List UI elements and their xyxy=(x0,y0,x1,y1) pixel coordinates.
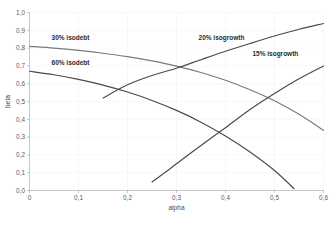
y-tick-label: 0,1 xyxy=(16,169,25,176)
series-label: 15% isogrowth xyxy=(252,50,298,58)
y-tick-label: 0,5 xyxy=(16,98,25,105)
y-tick-label: 0,0 xyxy=(16,187,25,194)
x-tick-label: 0,3 xyxy=(172,194,181,201)
line-chart: 0,00,10,20,30,40,50,60,70,80,91,000,10,2… xyxy=(0,0,330,227)
y-tick-label: 0,4 xyxy=(16,116,25,123)
x-tick-label: 0,2 xyxy=(123,194,132,201)
y-tick-label: 0,2 xyxy=(16,151,25,158)
x-tick-label: 0,5 xyxy=(270,194,279,201)
series-label: 60% isodebt xyxy=(52,59,91,66)
series-label: 30% isodebt xyxy=(52,34,91,41)
y-tick-label: 0,3 xyxy=(16,133,25,140)
series-label: 20% isogrowth xyxy=(199,34,245,42)
y-tick-label: 0,9 xyxy=(16,27,25,34)
y-tick-label: 0,6 xyxy=(16,80,25,87)
y-tick-label: 1,0 xyxy=(16,9,25,16)
x-tick-label: 0,1 xyxy=(74,194,83,201)
x-tick-label: 0,6 xyxy=(319,194,328,201)
y-tick-label: 0,8 xyxy=(16,44,25,51)
y-axis-title: beta xyxy=(4,95,11,108)
x-axis-title: alpha xyxy=(168,204,184,212)
chart-container: 0,00,10,20,30,40,50,60,70,80,91,000,10,2… xyxy=(0,0,330,227)
y-tick-label: 0,7 xyxy=(16,62,25,69)
x-tick-label: 0 xyxy=(28,194,32,201)
x-tick-label: 0,4 xyxy=(221,194,230,201)
